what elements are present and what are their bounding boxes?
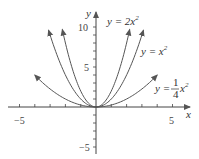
y-tick-label-neg5: −5 (79, 142, 90, 153)
x-tick-label-neg5: −5 (14, 115, 25, 126)
y-axis-label: y (85, 7, 91, 19)
curve-0-left (62, 30, 96, 107)
x-tick-label-5: 5 (169, 115, 174, 126)
curve-2-right (96, 75, 157, 107)
svg-text:4: 4 (173, 88, 179, 100)
svg-text:x2: x2 (179, 81, 189, 94)
curve-2-left (35, 75, 96, 107)
y-tick-label-10: 10 (78, 22, 88, 33)
svg-text:y =: y = (154, 82, 170, 94)
curve-label-quarter-x2: y = 1 4 x2 (154, 76, 189, 100)
curve-label-2x2: y = 2x2 (106, 14, 139, 27)
svg-text:1: 1 (173, 76, 179, 88)
parabola-chart: −5 5 10 5 −5 x y y = 2x2 y = x2 y = 1 4 … (0, 0, 199, 159)
curve-label-x2: y = x2 (140, 44, 168, 57)
y-tick-label-5: 5 (84, 62, 89, 73)
curve-0-right (96, 30, 130, 107)
x-axis-label: x (185, 108, 191, 120)
